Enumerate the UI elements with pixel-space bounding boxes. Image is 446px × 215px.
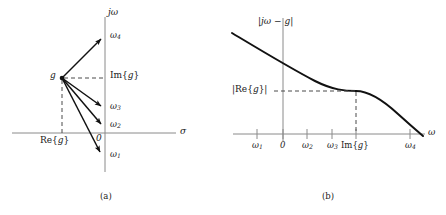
panel-b-yaxis-label: |jω − g| [258,17,293,26]
caption-panel-b: (b) [322,191,334,201]
vector-label-omega1: ω1 [110,150,121,159]
real-g-label: Re{g} [40,136,69,145]
vector-label-omega2: ω2 [110,120,121,129]
panel-a-xaxis-label: σ [180,127,186,136]
ticklabel-omega3: ω3 [327,141,338,150]
ticklabel-omega2: ω2 [302,141,313,150]
caption-panel-a: (a) [100,191,112,201]
figure-container: jω σ g Im{g} Re{g} 0 ω4 ω3 ω2 ω1 |jω − g… [0,0,446,215]
min-value-label: |Re{g}| [232,85,267,94]
ticklabel-zero: 0 [280,141,285,150]
vector-to-omega4 [62,39,101,78]
panel-b [232,18,425,141]
panel-a-yaxis-label: jω [108,8,118,17]
point-g-marker [60,76,65,81]
figure-svg [0,0,446,215]
ticklabel-omega1: ω1 [252,141,263,150]
imag-g-label: Im{g} [110,71,139,80]
panel-b-xaxis-label: ω [428,128,435,137]
vector-label-omega4: ω4 [110,31,121,40]
origin-label-panel-a: 0 [96,134,102,143]
panel-a [12,17,176,172]
point-g-label: g [50,71,56,80]
ticklabel-omega4: ω4 [405,141,416,150]
vector-label-omega3: ω3 [110,102,121,111]
ticklabel-imag-g: Im{g} [341,141,369,150]
